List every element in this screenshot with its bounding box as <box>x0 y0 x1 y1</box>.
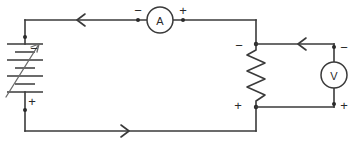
voltmeter-negative-terminal-dot <box>332 45 336 49</box>
ammeter-letter: A <box>156 15 164 27</box>
main-loop-wires <box>25 20 256 131</box>
battery-positive-terminal-dot <box>23 108 27 112</box>
ammeter-negative-label: − <box>134 3 142 18</box>
battery-negative-label: − <box>30 41 38 56</box>
battery-positive-label: + <box>28 94 36 109</box>
resistor: − + <box>234 38 265 113</box>
ammeter-positive-terminal-dot <box>181 18 185 22</box>
battery-negative-terminal-dot <box>23 35 27 39</box>
circuit-diagram-page: − + A − + − + V <box>0 0 350 148</box>
resistor-positive-label: + <box>234 98 242 113</box>
resistor-negative-label: − <box>235 38 243 53</box>
voltmeter-negative-label: − <box>340 40 348 55</box>
current-arrows <box>77 14 306 137</box>
ammeter-positive-label: + <box>179 3 187 18</box>
voltmeter-positive-label: + <box>340 98 348 113</box>
resistor-zigzag-body <box>247 44 265 107</box>
voltmeter-positive-terminal-dot <box>332 102 336 106</box>
circuit-schematic-canvas: − + A − + − + V <box>0 0 350 148</box>
ammeter: A − + <box>134 3 187 34</box>
voltmeter-branch: V − + <box>256 40 348 113</box>
battery: − + <box>6 35 43 112</box>
ammeter-negative-terminal-dot <box>136 18 140 22</box>
voltmeter-letter: V <box>330 70 338 82</box>
